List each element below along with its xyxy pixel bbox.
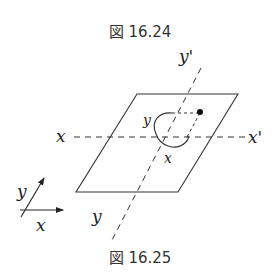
label-y-prime: y' [178, 46, 193, 66]
label-rot-y: y [142, 112, 152, 128]
caption-bottom: 図 16.25 [109, 249, 172, 267]
label-ref-x: x [36, 215, 46, 235]
label-x-prime: x' [248, 127, 262, 147]
point-projection-diagonal [187, 113, 200, 137]
caption-top: 図 16.24 [109, 23, 172, 41]
plane-parallelogram [76, 94, 238, 192]
label-y-bottom: y [91, 206, 102, 226]
diagram: 図 16.24 y' x x' y x y y x 図 16.25 [0, 0, 280, 277]
point-marker [197, 109, 203, 115]
label-rot-x: x [164, 150, 172, 166]
label-x-left: x [56, 126, 66, 146]
rotation-curve [154, 113, 188, 147]
label-ref-y: y [16, 181, 27, 201]
